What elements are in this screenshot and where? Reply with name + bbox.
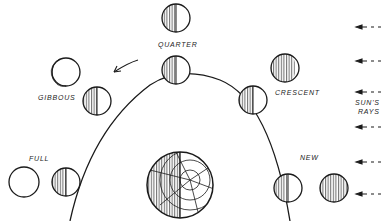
moon-crescent-view (271, 54, 299, 82)
moon-quarter-view (162, 4, 190, 32)
label-new: NEW (300, 154, 319, 161)
sun-ray-arrow-icon (356, 59, 381, 63)
moon-full-view (9, 167, 39, 197)
sun-ray-arrow-icon (356, 160, 381, 164)
label-full: FULL (29, 155, 49, 162)
label-quarter: QUARTER (158, 41, 198, 49)
moon-new-view (320, 174, 348, 202)
moon-phases-diagram: QUARTER GIBBOUS CRESCENT FULL (0, 0, 388, 221)
moon-gibbous-view (51, 58, 80, 87)
label-crescent: CRESCENT (275, 89, 320, 96)
label-suns-rays-2: RAYS (358, 108, 380, 115)
sun-ray-arrow-icon (356, 125, 381, 129)
earth-globe (147, 150, 222, 220)
label-gibbous: GIBBOUS (38, 94, 76, 101)
moon-quarter-orbit (162, 56, 190, 84)
sun-ray-arrow-icon (356, 25, 381, 29)
label-suns-rays-1: SUN'S (355, 99, 380, 106)
moon-full-orbit (52, 168, 80, 196)
moon-gibbous-orbit (83, 87, 111, 115)
moon-new-orbit (274, 174, 302, 202)
orbit-direction-arrow (114, 60, 138, 72)
sun-ray-arrow-icon (356, 90, 381, 94)
moon-crescent-orbit (239, 86, 267, 114)
sun-ray-arrow-icon (356, 192, 381, 196)
